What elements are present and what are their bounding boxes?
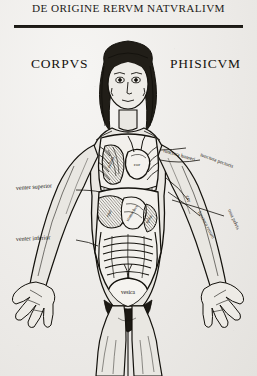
neck	[119, 110, 137, 131]
organ-label-cor: cor	[134, 162, 141, 167]
side-label-ossa-pelvis: ossa pelvis	[227, 208, 240, 230]
arm-right	[158, 145, 226, 292]
figure-body	[12, 41, 243, 376]
side-label-venter-superior: venter superior	[16, 182, 52, 191]
anatomical-woodcut: pulmo cor epar stomachus splen vesica ve…	[0, 0, 257, 376]
side-label-iunctura-pectoris: iunctura pectoris	[200, 151, 235, 169]
leg-right	[132, 306, 162, 376]
arm-left	[30, 145, 98, 292]
hand-left	[12, 282, 54, 327]
organ-pulmo	[102, 145, 124, 184]
abdominal-cavity	[95, 188, 161, 318]
hand-right	[201, 282, 243, 327]
organ-label-vesica: vesica	[121, 289, 135, 295]
page-root: DE ORIGINE RERVM NATVRALIVM CORPVS PHISI…	[0, 0, 257, 376]
leg-left	[96, 306, 126, 376]
